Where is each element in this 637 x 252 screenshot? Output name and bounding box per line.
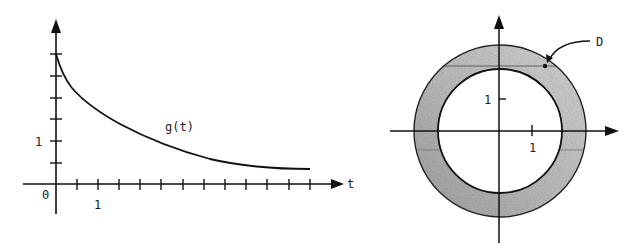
point-in-d (543, 64, 547, 68)
g-of-t-curve (56, 54, 310, 169)
figure-canvas: g(t) t 0 1 1 1 1 D (0, 0, 637, 252)
x-axis-arrow-icon (605, 126, 619, 136)
x-tick-label-1: 1 (529, 141, 536, 155)
y-tick-label-1: 1 (35, 135, 42, 149)
x-tick-label-1: 1 (94, 198, 101, 212)
y-axis-arrow-icon (494, 15, 504, 29)
function-label: g(t) (165, 120, 194, 134)
x-axis-arrow-icon (331, 179, 344, 189)
right-diagram: 1 1 D (390, 15, 619, 243)
origin-label: 0 (42, 188, 49, 202)
y-tick-label-1: 1 (484, 93, 491, 107)
y-axis-arrow-icon (51, 19, 61, 33)
region-label-d: D (596, 35, 603, 49)
x-axis-label: t (347, 177, 354, 191)
left-graph: g(t) t 0 1 1 (23, 19, 354, 214)
